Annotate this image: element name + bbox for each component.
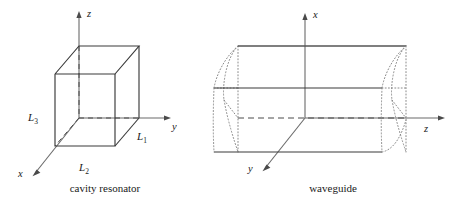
cavity-dim-L3-label: L3 (27, 111, 38, 126)
waveguide-panel: x z y waveguide (213, 9, 445, 194)
cavity-resonator-caption: cavity resonator (70, 182, 141, 194)
waveguide-z-axis-label: z (423, 123, 428, 134)
cavity-x-axis-label: x (17, 168, 23, 179)
waveguide-z-axis (305, 115, 445, 120)
technical-diagram: L3 L2 L1 z y x cavity resonator (0, 0, 456, 203)
waveguide-end-caps (214, 46, 406, 152)
waveguide-corner-connectors (213, 46, 406, 152)
waveguide-x-axis (302, 13, 307, 118)
waveguide-y-axis-label: y (247, 163, 253, 174)
cavity-dim-L1-label: L1 (136, 130, 147, 145)
cavity-resonator-panel: L3 L2 L1 z y x cavity resonator (17, 8, 177, 194)
waveguide-x-axis-label: x (312, 9, 318, 20)
waveguide-caption: waveguide (309, 182, 357, 194)
figure-container: L3 L2 L1 z y x cavity resonator (0, 0, 456, 203)
cavity-dim-L2-label: L2 (78, 161, 89, 176)
cavity-cube (55, 46, 139, 146)
cavity-z-axis-label: z (86, 8, 91, 19)
waveguide-body (214, 46, 406, 152)
waveguide-y-axis (263, 118, 306, 171)
cavity-y-axis-label: y (171, 121, 177, 132)
